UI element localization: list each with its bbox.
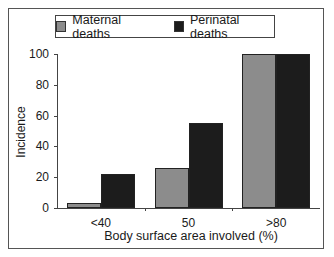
- y-tick-label: 60: [19, 109, 49, 123]
- y-tick: [54, 208, 57, 209]
- bar-maternal-deaths: [67, 203, 101, 208]
- bar-maternal-deaths: [155, 168, 189, 208]
- y-tick-label: 0: [19, 201, 49, 215]
- x-tick-label: <40: [76, 216, 126, 230]
- bar-perinatal-deaths: [101, 174, 135, 208]
- y-tick-label: 40: [19, 139, 49, 153]
- x-tick-label: 50: [164, 216, 214, 230]
- x-tick: [232, 208, 233, 211]
- y-tick: [54, 116, 57, 117]
- x-axis-line: [57, 208, 320, 209]
- plot-area: 020406080100<4050>80: [0, 0, 334, 257]
- y-tick: [54, 177, 57, 178]
- y-tick: [54, 146, 57, 147]
- bar-perinatal-deaths: [276, 54, 310, 208]
- bar-maternal-deaths: [242, 54, 276, 208]
- x-tick: [145, 208, 146, 211]
- y-axis-line: [57, 54, 58, 208]
- y-tick: [54, 85, 57, 86]
- x-tick-label: >80: [251, 216, 301, 230]
- y-tick-label: 100: [19, 47, 49, 61]
- y-tick-label: 80: [19, 78, 49, 92]
- y-tick: [54, 54, 57, 55]
- y-tick-label: 20: [19, 170, 49, 184]
- bar-perinatal-deaths: [189, 123, 223, 208]
